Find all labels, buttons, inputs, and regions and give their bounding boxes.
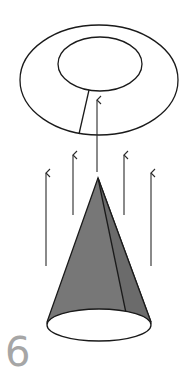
figure-number: 6 xyxy=(5,332,30,372)
ring-inner-ellipse xyxy=(58,37,142,91)
cone-base-ellipse xyxy=(47,309,151,341)
flattened-ring xyxy=(20,25,178,135)
ring-cut-line xyxy=(79,90,89,134)
cone xyxy=(47,178,151,341)
cone-to-ring-diagram xyxy=(0,0,186,374)
ring-outer-ellipse xyxy=(20,25,178,135)
